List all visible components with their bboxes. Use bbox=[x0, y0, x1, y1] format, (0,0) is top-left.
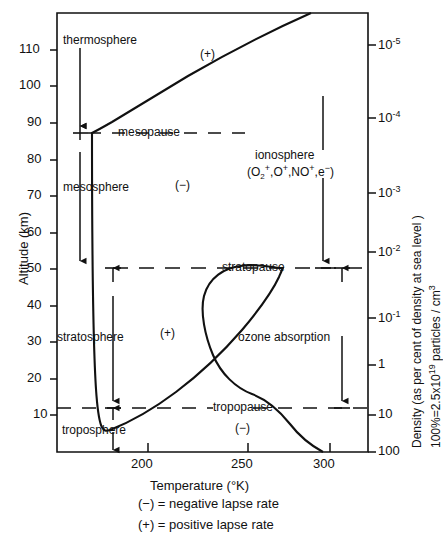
density-tick-1: 1 bbox=[378, 356, 385, 371]
annotation-ionosphere: ionosphere bbox=[255, 148, 314, 162]
annotation-lapse-positive-lower: (+) bbox=[160, 326, 175, 340]
xtick-250: 250 bbox=[231, 456, 253, 471]
annotation-lapse-positive-upper: (+) bbox=[200, 47, 215, 61]
temperature-axis-ticks bbox=[148, 443, 330, 452]
ytick-20: 20 bbox=[27, 370, 41, 385]
density-tick-1e-5: 10-5 bbox=[378, 36, 400, 52]
density-axis-title-line2: 100%=2.5x1019 particles / cm3 bbox=[427, 285, 443, 448]
density-tick-10: 10 bbox=[378, 406, 392, 421]
density-axis-ticks bbox=[368, 45, 376, 452]
density-axis-title-line1: Density (as per cent of density at sea l… bbox=[410, 215, 424, 448]
caption-positive-lapse-rate: (+) = positive lapse rate bbox=[138, 517, 274, 532]
temperature-axis-title: Temperature (°K) bbox=[150, 478, 249, 493]
ytick-100: 100 bbox=[19, 77, 41, 92]
caption-negative-lapse-rate: (−) = negative lapse rate bbox=[138, 496, 279, 511]
ytick-70: 70 bbox=[27, 187, 41, 202]
annotation-mesopause: mesopause bbox=[118, 125, 180, 139]
ytick-10: 10 bbox=[33, 406, 47, 421]
annotation-lapse-negative-upper: (−) bbox=[175, 178, 190, 192]
density-tick-1e-2: 10-2 bbox=[378, 243, 400, 259]
annotation-stratopause: stratopause bbox=[222, 260, 285, 274]
annotation-lapse-negative-lower: (−) bbox=[235, 421, 250, 435]
xtick-300: 300 bbox=[313, 456, 335, 471]
ytick-40: 40 bbox=[27, 297, 41, 312]
annotation-ionosphere-species: (O2+,O+,NO+,e−) bbox=[247, 163, 334, 181]
annotation-tropopause: tropopause bbox=[213, 400, 273, 414]
ytick-80: 80 bbox=[27, 151, 41, 166]
annotation-mesosphere: mesosphere bbox=[63, 180, 129, 194]
density-tick-1e-1: 10-1 bbox=[378, 309, 400, 325]
annotation-troposphere: troposphere bbox=[62, 423, 126, 437]
density-tick-1e-4: 10-4 bbox=[378, 109, 400, 125]
annotation-ozone-absorption: ozone absorption bbox=[238, 330, 330, 344]
density-tick-1e-3: 10-3 bbox=[378, 184, 400, 200]
temperature-profile-curve bbox=[92, 13, 323, 452]
ytick-110: 110 bbox=[19, 41, 40, 56]
altitude-axis-ticks bbox=[50, 50, 57, 415]
density-tick-100: 100 bbox=[378, 443, 400, 458]
altitude-axis-title: Altitude (km) bbox=[16, 212, 31, 285]
ytick-90: 90 bbox=[27, 114, 41, 129]
annotation-thermosphere: thermosphere bbox=[63, 33, 137, 47]
annotation-stratosphere: stratosphere bbox=[57, 330, 124, 344]
xtick-200: 200 bbox=[131, 456, 153, 471]
plot-frame bbox=[57, 13, 368, 452]
ytick-30: 30 bbox=[27, 333, 41, 348]
